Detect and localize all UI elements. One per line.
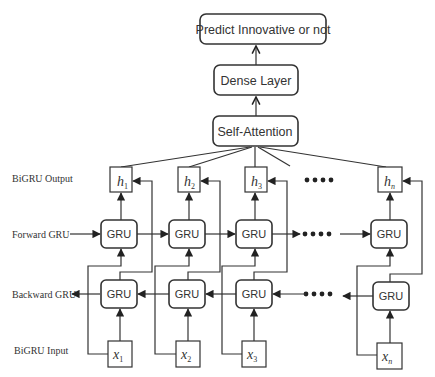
timestep-3: h3 GRU GRU x3 bbox=[206, 167, 333, 367]
row-label-forward: Forward GRU bbox=[12, 229, 70, 240]
dense-layer-label: Dense Layer bbox=[221, 74, 292, 88]
svg-text:GRU: GRU bbox=[107, 288, 132, 300]
timestep-1: h1 GRU GRU x1 bbox=[88, 167, 168, 367]
self-attention-box: Self-Attention bbox=[213, 116, 298, 146]
svg-text:GRU: GRU bbox=[377, 228, 402, 240]
row-label-output: BiGRU Output bbox=[12, 173, 73, 184]
svg-text:GRU: GRU bbox=[175, 228, 200, 240]
bigru-architecture-diagram: Predict Innovative or not Dense Layer Se… bbox=[0, 0, 435, 377]
svg-text:GRU: GRU bbox=[379, 290, 404, 302]
dense-layer-box: Dense Layer bbox=[214, 65, 298, 95]
svg-text:GRU: GRU bbox=[175, 288, 200, 300]
prediction-label: Predict Innovative or not bbox=[196, 23, 331, 37]
ellipsis-backward bbox=[304, 292, 333, 297]
ellipsis-forward bbox=[303, 232, 332, 237]
row-label-backward: Backward GRU bbox=[12, 289, 77, 300]
ellipsis-output bbox=[305, 178, 334, 183]
svg-text:GRU: GRU bbox=[242, 228, 267, 240]
row-label-input: BiGRU Input bbox=[14, 345, 68, 356]
prediction-box: Predict Innovative or not bbox=[196, 14, 331, 44]
svg-text:GRU: GRU bbox=[242, 288, 267, 300]
timestep-n: hn GRU GRU xn bbox=[340, 167, 422, 369]
attention-connections bbox=[121, 147, 386, 167]
svg-text:GRU: GRU bbox=[107, 228, 132, 240]
self-attention-label: Self-Attention bbox=[217, 125, 292, 139]
